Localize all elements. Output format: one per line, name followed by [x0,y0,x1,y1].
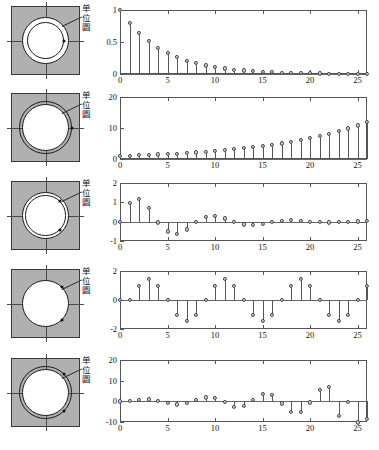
x-axis-tick-mark-top [263,360,264,364]
x-axis-tick-mark-top [358,10,359,14]
stem-marker [365,72,369,76]
y-axis-tick-label: 20 [109,92,118,102]
x-axis-tick-label: 5 [165,160,169,170]
unit-circle-callout: 单位圆 [82,4,104,33]
stem-line [329,134,330,159]
x-axis-tick-mark-top [263,10,264,14]
x-axis-tick-label: 5 [165,423,169,433]
x-axis-tick-mark-top [120,183,121,187]
stem-line [177,57,178,74]
pole-radius-circle [19,101,72,154]
unit-circle-callout: 单位圆 [82,356,104,385]
stem-marker [336,72,340,76]
x-axis-tick-mark [120,237,121,241]
stem-marker [365,120,369,124]
unit-circle-label: 单位圆 [82,356,104,385]
stem-marker [365,417,369,421]
x-axis-tick-mark [120,418,121,422]
stem-line [139,286,140,301]
x-axis-tick-mark-top [310,10,311,14]
stem-line [310,286,311,301]
x-axis-tick-label: 5 [165,75,169,85]
x-axis-tick-mark [358,325,359,329]
stem-line [215,286,216,301]
y-axis-tick-label: 10 [109,123,118,133]
y-axis-tick-label: 0 [113,396,117,406]
stem-line [301,140,302,159]
y-axis-tick-label: 1 [113,197,117,207]
z-plane-3 [11,181,80,250]
x-axis-tick-mark-top [310,271,311,275]
x-axis-tick-mark-top [168,183,169,187]
y-axis-tick-mark [120,202,124,203]
x-axis-tick-mark-top [168,360,169,364]
x-axis-tick-label: 25 [353,75,362,85]
x-axis-tick-mark-top [215,183,216,187]
y-axis-tick-label: 1 [113,5,117,15]
x-axis-tick-mark-top [215,360,216,364]
pole-marker-2 [61,319,64,322]
impulse-response-chart-3: -10120510152025 [120,183,367,241]
stem-line [158,286,159,301]
stem-line [120,10,121,74]
unit-circle-label: 单位圆 [82,91,104,120]
x-axis-tick-mark-top [215,10,216,14]
y-axis-tick-label: 10 [109,376,118,386]
stem-line [187,61,188,74]
unit-circle-callout: 单位圆 [82,267,104,296]
x-axis-tick-mark [263,418,264,422]
stem-marker [327,71,331,75]
stem-line [358,125,359,159]
stem-marker [365,283,369,287]
x-axis-tick-label: 15 [258,160,267,170]
y-axis-tick-label: -1 [110,236,117,246]
unit-circle-label-char-3: 圆 [82,375,104,385]
unit-circle-label-char-3: 圆 [82,110,104,120]
x-axis-tick-mark-top [215,271,216,275]
stem-line [348,128,349,159]
stem-line [149,279,150,300]
y-axis-tick-mark [120,128,124,129]
y-axis-tick-label: -10 [106,417,117,427]
x-axis-tick-label: 0 [118,242,122,252]
stability-row-5: 单位圆-10010200510152025 [0,354,379,441]
stem-line [310,138,311,159]
stem-line [358,401,359,422]
x-axis-tick-label: 5 [165,330,169,340]
x-axis-tick-mark [215,325,216,329]
stem-line [149,208,150,222]
x-axis-tick-mark-top [120,97,121,101]
x-axis-tick-mark [310,325,311,329]
x-axis-tick-mark [263,237,264,241]
y-axis-tick-label: 20 [109,355,118,365]
stability-row-4: 单位圆-2020510152025 [0,265,379,352]
stem-line [339,131,340,159]
impulse-response-chart-4: -2020510152025 [120,271,367,329]
stem-marker [346,72,350,76]
x-axis-tick-mark-top [358,183,359,187]
x-axis-tick-label: 5 [165,242,169,252]
y-axis-tick-label: 0.5 [106,37,117,47]
x-axis-tick-mark-top [168,97,169,101]
x-axis-tick-label: 20 [306,75,315,85]
stem-line [291,142,292,159]
stem-line [139,199,140,222]
pole-marker-2 [59,228,62,231]
x-axis-tick-mark-top [120,271,121,275]
x-axis-tick-label: 20 [306,242,315,252]
z-plane-5 [11,358,80,427]
stem-line [168,53,169,74]
x-axis-tick-mark [168,325,169,329]
impulse-response-chart-5: -10010200510152025 [120,360,367,422]
x-axis-tick-mark [168,237,169,241]
stem-line [130,203,131,221]
unit-circle-label-char-3: 圆 [82,23,104,33]
x-axis-tick-label: 25 [353,242,362,252]
x-axis-tick-mark-top [120,360,121,364]
x-axis-tick-mark [168,418,169,422]
unit-circle-callout: 单位圆 [82,179,104,208]
x-axis-tick-label: 20 [306,330,315,340]
x-axis-tick-label: 25 [353,423,362,433]
pole-marker-1 [63,39,66,42]
x-axis-tick-mark-top [168,10,169,14]
